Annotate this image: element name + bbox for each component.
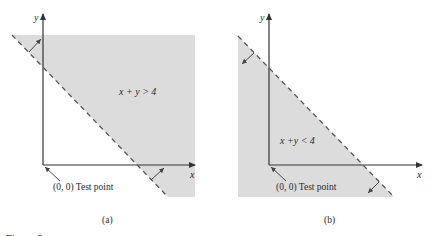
shaded-region-a — [12, 35, 195, 197]
figure-canvas: y x x + y > 4 (0, 0) Test point (a) y x … — [0, 0, 431, 236]
caption-a: (a) — [102, 215, 113, 226]
y-axis-label-a: y — [33, 12, 39, 23]
figure-caption-partial: Figure 3. — [6, 232, 46, 236]
caption-b: (b) — [324, 215, 335, 226]
test-point-label-b: (0, 0) Test point — [276, 182, 337, 193]
test-point-pointer-a — [45, 167, 60, 181]
x-axis-label-a: x — [189, 169, 195, 180]
panel-b: y x x +y < 4 (0, 0) Test point (b) — [238, 12, 422, 226]
y-axis-label-b: y — [259, 12, 265, 23]
x-axis-label-b: x — [416, 169, 422, 180]
inequality-label-b: x +y < 4 — [279, 135, 315, 146]
inequality-label-a: x + y > 4 — [118, 86, 156, 97]
test-point-label-a: (0, 0) Test point — [53, 182, 114, 193]
panel-a: y x x + y > 4 (0, 0) Test point (a) — [12, 12, 195, 226]
